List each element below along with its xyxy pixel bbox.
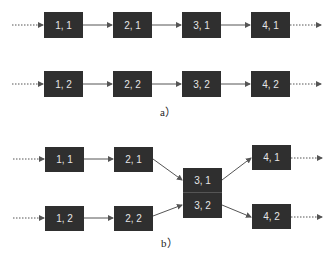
node-a-1-2: 1, 2 [44,71,83,97]
node-b-3-2: 3, 2 [183,193,222,218]
node-a-2-2: 2, 2 [113,71,152,97]
node-b-4-2: 4, 2 [252,204,291,229]
node-a-1-1: 1, 1 [44,12,83,38]
caption-b: b） [161,234,178,250]
node-b-1-1: 1, 1 [45,147,84,172]
node-b-2-1: 2, 1 [114,147,153,172]
node-b-3-1: 3, 1 [183,168,222,193]
node-b-1-2: 1, 2 [45,206,84,231]
merged-node-divider [183,192,222,193]
node-a-4-2: 4, 2 [251,71,290,97]
node-b-4-1: 4, 1 [252,145,291,170]
node-a-3-2: 3, 2 [182,71,221,97]
caption-a: a） [160,103,176,119]
node-a-3-1: 3, 1 [182,12,221,38]
node-b-2-2: 2, 2 [114,206,153,231]
node-a-4-1: 4, 1 [251,12,290,38]
node-a-2-1: 2, 1 [113,12,152,38]
